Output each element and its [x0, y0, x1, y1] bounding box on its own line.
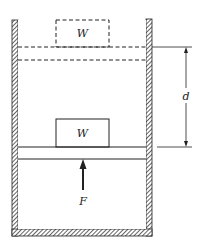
- right-wall: [146, 19, 152, 236]
- left-wall: [12, 20, 18, 236]
- weight-final-label: W: [77, 127, 90, 140]
- piston-cylinder-diagram: W W F d: [0, 0, 199, 247]
- displacement-label: d: [182, 90, 189, 103]
- force-label: F: [78, 195, 87, 208]
- bottom-wall: [12, 229, 152, 236]
- arrowhead-up-icon: [184, 47, 188, 53]
- arrowhead-down-icon: [184, 141, 188, 147]
- weight-initial-label: W: [77, 27, 90, 40]
